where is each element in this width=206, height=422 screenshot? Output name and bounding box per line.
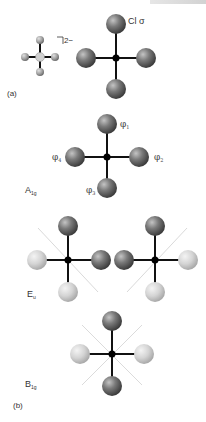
a1g-label: A1g	[25, 186, 37, 196]
eu-label: Eu	[27, 290, 36, 300]
phi1-label: φ1	[120, 120, 130, 130]
a1g-orbital	[65, 114, 149, 198]
phi3-label: φ3	[86, 186, 96, 196]
phi4-label: φ4	[52, 153, 62, 163]
small-molecule-icon	[21, 36, 59, 76]
b1g-label: B1g	[25, 380, 37, 390]
cl-sigma-molecule	[76, 14, 156, 99]
phi2-label: φ2	[154, 153, 164, 163]
panel-a-label: (a)	[7, 90, 17, 98]
cl-sigma-label: Cl σ	[128, 17, 145, 26]
bracket-icon	[57, 37, 63, 44]
charge-label: 2−	[64, 37, 73, 45]
eu-orbital-left	[27, 216, 111, 302]
orbital-diagram	[0, 0, 206, 422]
b1g-orbital	[70, 311, 154, 396]
panel-b-label: (b)	[13, 402, 23, 410]
eu-orbital-right	[114, 216, 198, 302]
